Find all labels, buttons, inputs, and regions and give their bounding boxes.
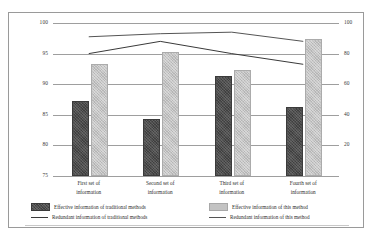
chart-figure: 7580859095100 20406080100 First set of i… (0, 0, 374, 235)
right-tick-label: 100 (344, 20, 352, 25)
line-series-container (53, 23, 339, 176)
chart-frame: 7580859095100 20406080100 First set of i… (8, 12, 364, 228)
legend-item: Effective information of this method (209, 203, 308, 211)
legend-swatch-line-dark-icon (31, 214, 48, 220)
category-label: Third set of information (196, 179, 268, 196)
category-label: Fourth set of information (268, 179, 340, 196)
right-tick-label: 60 (344, 81, 350, 86)
legend-swatch-box-light-icon (209, 203, 228, 211)
legend-label: Redundant information of traditional met… (52, 214, 147, 220)
right-tick-label: 80 (344, 51, 350, 56)
right-tick-label: 40 (344, 112, 350, 117)
left-tick-label: 75 (42, 173, 48, 178)
left-tick-label: 85 (42, 112, 48, 117)
gridline (53, 176, 339, 177)
legend-swatch-box-dark-icon (31, 203, 50, 211)
line-series (89, 41, 304, 64)
left-tick-label: 90 (42, 81, 48, 86)
category-axis-labels: First set of informationSecond set of in… (53, 179, 339, 201)
plot-area: 7580859095100 20406080100 (53, 23, 339, 176)
category-label: Second set of information (125, 179, 197, 196)
category-label: First set of information (53, 179, 125, 196)
legend-label: Effective information of this method (232, 204, 308, 210)
top-caption-partial (40, 1, 320, 10)
legend-divider (25, 225, 349, 226)
right-tick-label: 20 (344, 142, 350, 147)
left-tick-label: 95 (42, 51, 48, 56)
left-tick-label: 80 (42, 142, 48, 147)
legend-label: Effective information of traditional met… (54, 204, 146, 210)
legend-label: Redundant information of this method (230, 214, 310, 220)
chart-legend: Effective information of traditional met… (31, 203, 347, 225)
left-tick-label: 100 (40, 20, 48, 25)
line-series (89, 32, 304, 41)
legend-swatch-line-gray-icon (209, 214, 226, 220)
legend-item: Effective information of traditional met… (31, 203, 146, 211)
legend-item: Redundant information of traditional met… (31, 214, 147, 220)
legend-item: Redundant information of this method (209, 214, 310, 220)
